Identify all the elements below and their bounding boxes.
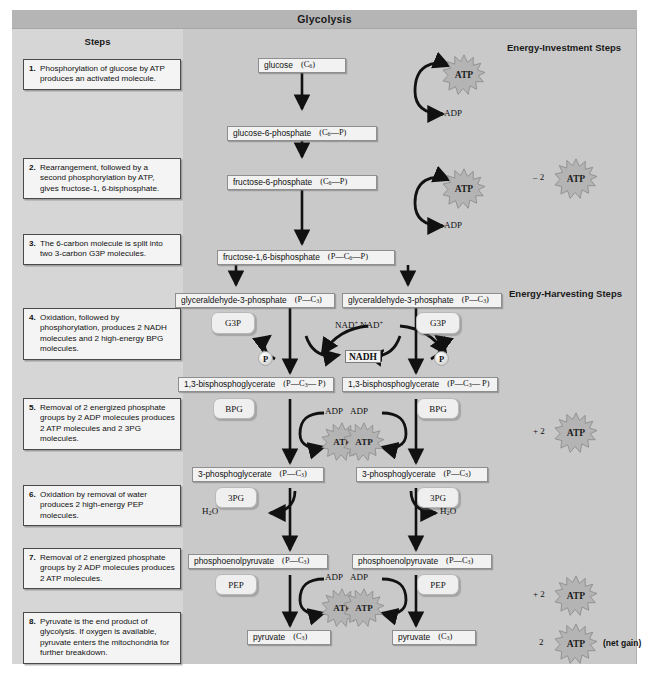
molecule-pep-right: phosphoenolpyruvate (P—C3)	[352, 554, 492, 569]
molecule-name: glyceraldehyde-3-phosphate	[348, 294, 454, 307]
molecule-bpg-right: 1,3-bisphosphoglycerate (P—C3— P)	[342, 377, 498, 392]
glycolysis-figure: Glycolysis Steps 1. Phosphorylation of g…	[12, 10, 637, 664]
molecule-glucose-6-phosphate: glucose-6-phosphate (C6—P)	[227, 126, 377, 141]
molecule-pep-left: phosphoenolpyruvate (P—C3)	[188, 554, 328, 569]
atp-burst-investment-total: ATP	[553, 158, 599, 200]
molecule-name: pyruvate	[398, 631, 430, 644]
nadh-count-right: 2	[328, 350, 333, 360]
molecule-pyruvate-left: pyruvate (C3)	[247, 630, 331, 645]
molecule-name: glyceraldehyde-3-phosphate	[181, 294, 287, 307]
molecule-formula: (P—C3)	[446, 554, 473, 569]
molecule-formula: (P—C3— P)	[283, 377, 325, 392]
molecule-formula: (P—C6—P)	[328, 250, 368, 265]
molecule-name: 1,3-bisphosphoglycerate	[348, 378, 439, 391]
molecule-name: fructose-6-phosphate	[233, 176, 312, 189]
molecule-formula: (P—C3)	[295, 293, 322, 308]
phosphate-badge-left: P	[258, 351, 273, 366]
molecule-name: fructose-1,6-bisphosphate	[223, 251, 320, 264]
pill-g3p-left: G3P	[211, 312, 255, 334]
molecule-formula: (P—C3)	[462, 293, 489, 308]
pill-3pg-right: 3PG	[417, 487, 459, 508]
adp-label-step1: ADP	[444, 108, 462, 118]
molecule-name: glucose-6-phosphate	[233, 127, 311, 140]
adp-label-step7-left: ADP	[325, 572, 343, 582]
molecule-formula: (C6)	[301, 58, 315, 73]
atp-burst-net-gain: ATP	[553, 623, 599, 665]
molecule-glucose: glucose (C6)	[258, 58, 346, 73]
net-gain-count: 2	[539, 637, 544, 647]
adp-label-step5-left: ADP	[325, 406, 343, 416]
pill-bpg-left: BPG	[213, 398, 255, 419]
molecule-fructose-1-6-bisphosphate: fructose-1,6-bisphosphate (P—C6—P)	[217, 250, 395, 265]
molecule-name: 3-phosphoglycerate	[198, 468, 272, 481]
molecule-name: 3-phosphoglycerate	[362, 468, 436, 481]
molecule-name: pyruvate	[253, 631, 285, 644]
molecule-formula: (C6—P)	[319, 126, 346, 141]
molecule-name: glucose	[264, 59, 293, 72]
molecule-name: 1,3-bisphosphoglycerate	[184, 378, 275, 391]
molecule-formula: (P—C3)	[444, 467, 471, 482]
molecule-formula: (C3)	[293, 630, 307, 645]
molecule-formula: (P—C3— P)	[447, 377, 489, 392]
adp-label-step5-right: ADP	[350, 406, 368, 416]
molecule-name: phosphoenolpyruvate	[358, 555, 438, 568]
water-label-left: H2O	[202, 506, 218, 516]
pill-pep-left: PEP	[215, 574, 257, 595]
atp-burst-step7-right: ATP	[342, 588, 386, 628]
molecule-formula: (C6—P)	[320, 175, 347, 190]
molecule-formula: (P—C3)	[280, 467, 307, 482]
adp-label-step2: ADP	[444, 220, 462, 230]
nad-plus-label-right: NAD+	[360, 319, 383, 330]
molecule-formula: (P—C3)	[282, 554, 309, 569]
water-label-right: H2O	[440, 506, 456, 516]
molecule-fructose-6-phosphate: fructose-6-phosphate (C6—P)	[227, 175, 377, 190]
molecule-formula: (C3)	[438, 630, 452, 645]
nad-plus-label-left: NAD+	[335, 319, 358, 330]
adp-label-step7-right: ADP	[350, 572, 368, 582]
molecule-bpg-left: 1,3-bisphosphoglycerate (P—C3— P)	[178, 377, 334, 392]
molecule-pyruvate-right: pyruvate (C3)	[392, 630, 476, 645]
investment-total-count: – 2	[533, 172, 544, 182]
molecule-g3p-left: glyceraldehyde-3-phosphate (P—C3)	[175, 293, 335, 308]
molecule-3-phosphoglycerate-right: 3-phosphoglycerate (P—C3)	[356, 467, 488, 482]
atp-burst-harvest-2: ATP	[553, 575, 599, 617]
atp-burst-step5-right: ATP	[342, 422, 386, 462]
atp-burst-step1: ATP	[441, 54, 487, 96]
phosphate-badge-right: P	[434, 351, 449, 366]
pill-pep-right: PEP	[417, 574, 459, 595]
molecule-name: phosphoenolpyruvate	[194, 555, 274, 568]
net-gain-label: (net gain)	[603, 638, 641, 648]
pill-3pg-left: 3PG	[215, 487, 257, 508]
atp-burst-harvest-1: ATP	[553, 412, 599, 454]
molecule-3-phosphoglycerate-left: 3-phosphoglycerate (P—C3)	[192, 467, 324, 482]
pill-bpg-right: BPG	[417, 398, 459, 419]
harvest-total-2-count: + 2	[533, 589, 545, 599]
pill-g3p-right: G3P	[416, 312, 460, 334]
molecule-g3p-right: glyceraldehyde-3-phosphate (P—C3)	[342, 293, 502, 308]
atp-burst-step2: ATP	[441, 168, 487, 210]
harvest-total-1-count: + 2	[533, 426, 545, 436]
nadh-label-left: NADH	[345, 350, 381, 363]
